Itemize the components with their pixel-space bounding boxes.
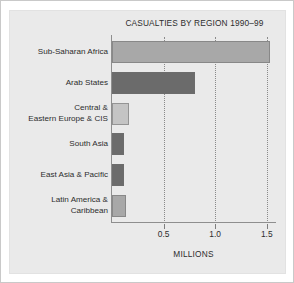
bar-row: [112, 41, 275, 63]
bar-row: [112, 72, 275, 94]
category-label: Latin America &Caribbean: [8, 195, 108, 216]
bar[interactable]: [112, 103, 129, 125]
bar[interactable]: [112, 41, 270, 63]
category-label-line: Caribbean: [8, 206, 108, 217]
category-label-line: Arab States: [8, 78, 108, 89]
gridline-1.5: [267, 37, 268, 221]
bar[interactable]: [112, 72, 195, 94]
category-label: East Asia & Pacific: [8, 170, 108, 181]
category-label: South Asia: [8, 139, 108, 150]
x-tick-label: 1.0: [195, 229, 235, 239]
bar[interactable]: [112, 164, 124, 186]
bar-row: [112, 164, 275, 186]
category-label-line: East Asia & Pacific: [8, 170, 108, 181]
bar-row: [112, 195, 275, 217]
category-label-line: South Asia: [8, 139, 108, 150]
x-tick-label: 0.5: [144, 229, 184, 239]
category-label: Arab States: [8, 78, 108, 89]
category-label: Central &Eastern Europe & CIS: [8, 103, 108, 124]
bar-row: [112, 133, 275, 155]
bar-row: [112, 103, 275, 125]
chart-title: CASUALTIES BY REGION 1990–99: [107, 18, 282, 28]
bar[interactable]: [112, 133, 124, 155]
category-label: Sub-Saharan Africa: [8, 47, 108, 58]
chart-figure: CASUALTIES BY REGION 1990–99 Sub-Saharan…: [0, 0, 294, 283]
category-label-line: Central &: [8, 103, 108, 114]
category-label-line: Eastern Europe & CIS: [8, 114, 108, 125]
gridline-1.0: [215, 37, 216, 221]
x-axis-line: [111, 222, 276, 223]
category-label-line: Sub-Saharan Africa: [8, 47, 108, 58]
plot-area: [112, 37, 275, 221]
x-axis-title: MILLIONS: [112, 249, 275, 259]
bar[interactable]: [112, 195, 126, 217]
x-axis-ticks: 0.51.01.5: [112, 229, 275, 243]
gridline-0.5: [164, 37, 165, 221]
category-label-line: Latin America &: [8, 195, 108, 206]
x-tick-label: 1.5: [247, 229, 287, 239]
category-axis-labels: Sub-Saharan AfricaArab StatesCentral &Ea…: [4, 37, 108, 221]
